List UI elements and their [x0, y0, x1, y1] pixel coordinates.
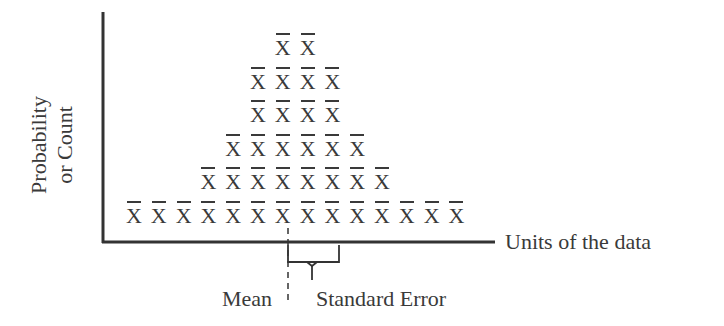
overline [251, 100, 265, 102]
overline [276, 33, 290, 35]
x-bar-mark: X [248, 171, 268, 193]
x-glyph: X [250, 69, 266, 94]
x-bar-mark: X [397, 205, 417, 227]
overline [276, 100, 290, 102]
x-bar-mark: X [298, 104, 318, 126]
x-bar-mark: X [347, 205, 367, 227]
x-glyph: X [200, 169, 216, 194]
x-glyph: X [151, 203, 167, 228]
x-bar-mark: X [273, 104, 293, 126]
x-glyph: X [275, 102, 291, 127]
x-glyph: X [300, 169, 316, 194]
x-glyph: X [126, 203, 142, 228]
overline [226, 134, 240, 136]
x-bar-mark: X [298, 71, 318, 93]
x-bar-mark: X [372, 171, 392, 193]
x-glyph: X [250, 136, 266, 161]
sampling-distribution-figure: Probability or Count XXXXXXXXXXXXXXXXXXX… [0, 0, 724, 326]
overline [251, 167, 265, 169]
overline [276, 134, 290, 136]
overline [301, 33, 315, 35]
x-axis-label: Units of the data [505, 229, 651, 255]
overline [301, 134, 315, 136]
x-glyph: X [250, 203, 266, 228]
x-glyph: X [275, 136, 291, 161]
overline [301, 167, 315, 169]
overline [152, 201, 166, 203]
x-glyph: X [324, 169, 340, 194]
x-bar-mark: X [273, 138, 293, 160]
x-bar-mark: X [273, 171, 293, 193]
x-bar-mark: X [347, 138, 367, 160]
x-bar-mark: X [223, 205, 243, 227]
overline [325, 167, 339, 169]
overline [201, 201, 215, 203]
x-glyph: X [250, 169, 266, 194]
overline [127, 201, 141, 203]
overline [350, 201, 364, 203]
overline [325, 201, 339, 203]
x-bar-mark: X [298, 138, 318, 160]
overline [276, 167, 290, 169]
x-bar-mark: X [422, 205, 442, 227]
x-glyph: X [300, 35, 316, 60]
x-glyph: X [349, 203, 365, 228]
x-bar-mark: X [322, 205, 342, 227]
overline [226, 167, 240, 169]
x-glyph: X [399, 203, 415, 228]
x-glyph: X [424, 203, 440, 228]
x-glyph: X [448, 203, 464, 228]
x-glyph: X [300, 136, 316, 161]
x-bar-mark: X [149, 205, 169, 227]
x-bar-mark: X [298, 37, 318, 59]
x-glyph: X [300, 69, 316, 94]
x-glyph: X [275, 203, 291, 228]
x-bar-mark: X [124, 205, 144, 227]
x-glyph: X [225, 169, 241, 194]
x-glyph: X [275, 169, 291, 194]
x-bar-mark: X [322, 71, 342, 93]
overline [251, 134, 265, 136]
x-bar-mark: X [248, 205, 268, 227]
x-glyph: X [374, 169, 390, 194]
x-glyph: X [349, 136, 365, 161]
overline [201, 167, 215, 169]
overline [425, 201, 439, 203]
x-bar-mark: X [198, 171, 218, 193]
x-bar-mark: X [273, 37, 293, 59]
axes [0, 0, 724, 326]
standard-error-brace [288, 245, 339, 262]
overline [301, 201, 315, 203]
x-glyph: X [225, 136, 241, 161]
standard-error-label: Standard Error [316, 286, 446, 312]
x-glyph: X [324, 136, 340, 161]
overline [350, 167, 364, 169]
overline [226, 201, 240, 203]
overline [350, 134, 364, 136]
x-bar-mark: X [174, 205, 194, 227]
overline [276, 201, 290, 203]
overline [325, 134, 339, 136]
x-glyph: X [275, 35, 291, 60]
x-bar-mark: X [273, 71, 293, 93]
y-axis-label-line2: or Count [52, 96, 78, 194]
overline [251, 67, 265, 69]
overline [251, 201, 265, 203]
x-bar-mark: X [248, 71, 268, 93]
x-glyph: X [275, 69, 291, 94]
x-glyph: X [250, 102, 266, 127]
x-bar-mark: X [298, 171, 318, 193]
x-bar-mark: X [446, 205, 466, 227]
x-bar-mark: X [248, 138, 268, 160]
x-bar-mark: X [298, 205, 318, 227]
overline [400, 201, 414, 203]
x-glyph: X [374, 203, 390, 228]
x-bar-mark: X [347, 171, 367, 193]
x-bar-mark: X [198, 205, 218, 227]
overline [276, 67, 290, 69]
x-bar-mark: X [322, 138, 342, 160]
x-glyph: X [225, 203, 241, 228]
x-bar-mark: X [248, 104, 268, 126]
x-bar-mark: X [322, 171, 342, 193]
overline [301, 67, 315, 69]
